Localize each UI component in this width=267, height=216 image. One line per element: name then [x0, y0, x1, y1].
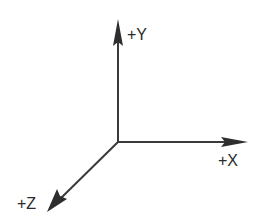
- axes-svg: +Y +X +Z: [0, 0, 267, 216]
- z-axis: [47, 142, 118, 212]
- z-arrowhead-icon: [47, 189, 67, 212]
- z-axis-label: +Z: [17, 195, 36, 212]
- y-arrowhead-icon: [113, 19, 123, 46]
- x-arrowhead-icon: [221, 137, 248, 147]
- x-axis-label: +X: [218, 152, 238, 169]
- axes-diagram: +Y +X +Z: [0, 0, 267, 216]
- y-axis-label: +Y: [127, 26, 147, 43]
- y-axis: [113, 19, 123, 142]
- x-axis: [118, 137, 248, 147]
